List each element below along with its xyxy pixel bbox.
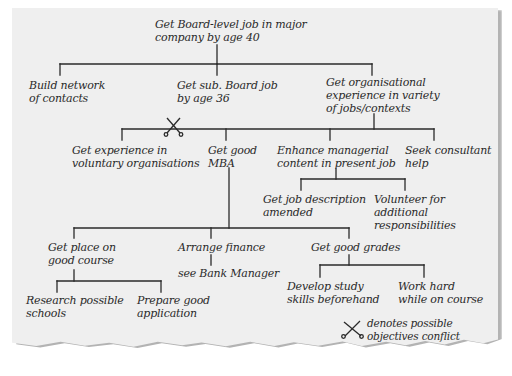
node-see-bank-manager: see Bank Manager	[178, 267, 279, 280]
node-seek-consultant: Seek consultant help	[405, 144, 491, 170]
node-research-schools: Research possible schools	[26, 294, 124, 320]
node-volunteer-responsibilities: Volunteer for additional responsibilitie…	[374, 193, 456, 232]
node-good-mba: Get good MBA	[208, 144, 257, 170]
node-enhance-managerial: Enhance managerial content in present jo…	[277, 144, 396, 170]
legend-scissors-cross-icon	[342, 321, 364, 338]
objectives-tree-diagram: Get Board-level job in major company by …	[0, 0, 512, 376]
node-organisational-experience: Get organisational experience in variety…	[326, 76, 439, 115]
node-voluntary-experience: Get experience in voluntary organisation…	[72, 144, 199, 170]
node-place-on-course: Get place on good course	[48, 241, 116, 267]
node-develop-study-skills: Develop study skills beforehand	[287, 280, 379, 306]
node-arrange-finance: Arrange finance	[178, 241, 265, 254]
scissors-cross-icon	[164, 118, 183, 136]
node-good-grades: Get good grades	[311, 241, 400, 254]
node-build-network: Build network of contacts	[29, 79, 105, 105]
node-sub-board-job: Get sub. Board job by age 36	[177, 79, 278, 105]
legend-conflict-text: denotes possible objectives conflict	[367, 317, 460, 343]
node-root-board-job: Get Board-level job in major company by …	[155, 18, 307, 44]
node-prepare-application: Prepare good application	[137, 294, 210, 320]
node-job-description: Get job description amended	[263, 193, 366, 219]
node-work-hard: Work hard while on course	[398, 280, 483, 306]
